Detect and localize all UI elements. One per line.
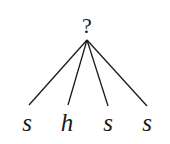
leaf-node-label-4: s	[142, 109, 152, 136]
edge-4	[87, 40, 147, 106]
tree-diagram: ? s h s s	[0, 0, 170, 144]
leaf-node-label-1: s	[22, 109, 32, 136]
edge-1	[29, 40, 87, 105]
edge-3	[87, 40, 108, 106]
leaf-node-label-2: h	[61, 109, 74, 136]
root-node-label: ?	[82, 13, 92, 38]
leaf-node-label-3: s	[103, 109, 113, 136]
